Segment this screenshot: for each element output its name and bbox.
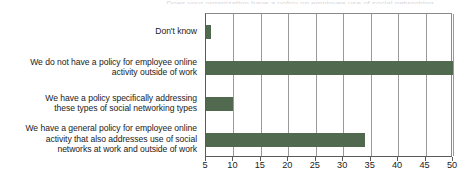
x-axis-tick-label: 15 [245, 160, 275, 171]
x-axis-tick-label: 45 [410, 160, 440, 171]
category-label-line: We have a general policy for employee on… [0, 123, 197, 133]
x-axis-tick-labels: 5101520253035404550 [205, 160, 452, 171]
category-axis-labels: Don't knowWe do not have a policy for em… [0, 13, 201, 157]
bar [206, 97, 233, 111]
category-label-line: activity outside of work [0, 67, 197, 77]
category-label-line: activity that also addresses use of soci… [0, 134, 197, 144]
bar [206, 61, 453, 75]
gridline [398, 14, 399, 156]
category-label: We have a general policy for employee on… [0, 123, 197, 154]
x-axis-tick-label: 5 [190, 160, 220, 171]
gridline [426, 14, 427, 156]
x-axis-tick-label: 30 [327, 160, 357, 171]
x-axis-tick-label: 40 [382, 160, 412, 171]
clipped-chart-title: Does your organization have a policy on … [150, 0, 450, 4]
gridline [453, 14, 454, 156]
gridline [371, 14, 372, 156]
bar [206, 133, 365, 147]
category-label-line: networks at work and outside of work [0, 144, 197, 154]
category-label-line: these types of social networking types [0, 103, 197, 113]
x-axis-tick-label: 20 [272, 160, 302, 171]
bar-chart: Does your organization have a policy on … [0, 0, 458, 171]
bar [206, 25, 211, 39]
x-axis-tick-label: 50 [437, 160, 458, 171]
x-axis-tick-label: 10 [217, 160, 247, 171]
category-label-line: We have a policy specifically addressing [0, 93, 197, 103]
category-label-line: Don't know [0, 26, 197, 36]
plot-area [205, 13, 452, 157]
x-axis-tick-label: 35 [355, 160, 385, 171]
category-label: Don't know [0, 26, 197, 36]
category-label-line: We do not have a policy for employee onl… [0, 57, 197, 67]
category-label: We have a policy specifically addressing… [0, 93, 197, 114]
category-label: We do not have a policy for employee onl… [0, 57, 197, 78]
x-axis-tick-label: 25 [300, 160, 330, 171]
